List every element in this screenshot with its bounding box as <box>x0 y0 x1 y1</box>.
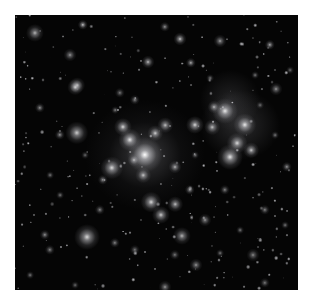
faint-source <box>226 201 230 204</box>
galaxy <box>270 83 283 96</box>
faint-source <box>62 35 64 37</box>
galaxy <box>243 142 259 158</box>
faint-source <box>119 52 123 55</box>
faint-source <box>261 88 264 91</box>
galaxy <box>236 226 244 234</box>
faint-source <box>226 213 229 216</box>
faint-source <box>256 261 259 264</box>
faint-source <box>155 81 158 84</box>
faint-source <box>85 256 89 260</box>
faint-source <box>275 15 277 16</box>
galaxy <box>81 151 89 159</box>
galaxy <box>26 271 34 279</box>
faint-source <box>232 196 236 199</box>
faint-source <box>292 145 294 148</box>
faint-source <box>246 134 248 136</box>
faint-source <box>41 78 44 82</box>
faint-source <box>201 64 205 68</box>
faint-source <box>83 214 87 217</box>
faint-source <box>50 145 53 148</box>
faint-source <box>242 285 245 289</box>
faint-source <box>285 262 288 266</box>
galaxy <box>271 131 279 139</box>
faint-source <box>271 80 274 84</box>
galaxy <box>67 79 83 95</box>
faint-source <box>67 216 70 218</box>
faint-source <box>171 226 175 229</box>
faint-source <box>16 180 20 183</box>
faint-source <box>274 256 278 261</box>
faint-source <box>164 57 167 59</box>
faint-source <box>128 257 131 260</box>
faint-source <box>279 253 283 256</box>
galaxy <box>174 33 187 46</box>
faint-source <box>115 36 117 39</box>
galaxy <box>190 259 203 272</box>
faint-source <box>202 140 205 142</box>
faint-source <box>166 258 168 260</box>
faint-source <box>114 46 116 47</box>
galaxy <box>217 144 243 170</box>
faint-source <box>210 261 212 263</box>
faint-source <box>259 238 261 240</box>
faint-source <box>25 132 28 135</box>
faint-source <box>201 36 204 38</box>
faint-source <box>28 88 31 90</box>
faint-source <box>187 270 191 273</box>
faint-source <box>26 64 29 68</box>
faint-source <box>260 206 263 210</box>
faint-source <box>271 248 274 252</box>
faint-source <box>172 235 176 239</box>
faint-source <box>252 196 255 199</box>
faint-source <box>270 187 273 190</box>
faint-source <box>205 187 207 189</box>
faint-source <box>285 70 289 75</box>
galaxy-cluster-image <box>15 15 298 290</box>
faint-source <box>39 30 42 32</box>
galaxy <box>251 71 259 79</box>
faint-source <box>182 161 185 163</box>
faint-source <box>75 187 78 189</box>
galaxy <box>74 224 100 250</box>
faint-source <box>273 199 276 203</box>
faint-source <box>293 134 296 138</box>
faint-source <box>208 190 211 194</box>
faint-source <box>23 164 27 169</box>
faint-source <box>143 251 146 254</box>
faint-source <box>262 52 265 55</box>
faint-source <box>165 228 167 230</box>
faint-source <box>128 231 131 235</box>
faint-source <box>257 192 261 197</box>
faint-source <box>165 201 169 205</box>
faint-source <box>276 154 278 156</box>
faint-source <box>103 179 106 182</box>
faint-source <box>267 46 270 49</box>
faint-source <box>217 258 220 262</box>
faint-source <box>69 175 71 178</box>
faint-source <box>288 56 291 58</box>
galaxy <box>281 221 289 229</box>
faint-source <box>124 150 126 151</box>
galaxy <box>256 101 264 109</box>
faint-source <box>140 219 143 221</box>
faint-source <box>60 72 62 74</box>
faint-source <box>180 62 184 65</box>
faint-source <box>86 182 89 185</box>
galaxy <box>56 191 64 199</box>
faint-source <box>137 48 141 53</box>
faint-source <box>286 41 289 44</box>
faint-source <box>58 76 62 81</box>
faint-source <box>22 245 24 247</box>
faint-source <box>40 189 42 191</box>
faint-source <box>241 41 245 46</box>
faint-source <box>212 120 215 124</box>
faint-source <box>162 155 165 158</box>
faint-source <box>15 184 16 186</box>
faint-source <box>25 136 28 139</box>
faint-source <box>190 84 193 87</box>
faint-source <box>252 90 254 92</box>
galaxy <box>46 171 54 179</box>
faint-source <box>252 37 254 39</box>
galaxy <box>247 249 260 262</box>
faint-source <box>21 223 24 227</box>
